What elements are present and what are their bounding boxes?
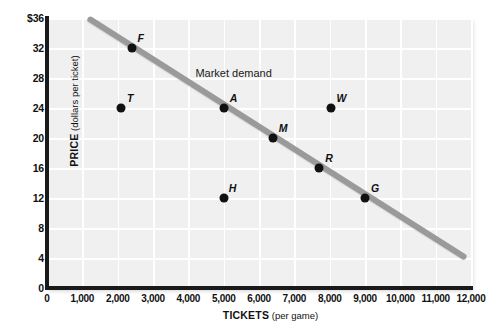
y-tick-label: 16 bbox=[2, 162, 44, 174]
gridline-vertical bbox=[224, 18, 226, 288]
market-demand-annotation: Market demand bbox=[195, 67, 271, 79]
y-tick-label: 32 bbox=[2, 42, 44, 54]
y-axis-line bbox=[45, 16, 49, 290]
x-tick-label: 4,000 bbox=[177, 293, 201, 304]
data-point-a bbox=[219, 104, 228, 113]
x-tick-label: 12,000 bbox=[457, 293, 486, 304]
data-point-w bbox=[327, 104, 336, 113]
y-axis-title-bold: PRICE bbox=[68, 134, 80, 167]
x-axis-title: TICKETS (per game) bbox=[0, 309, 501, 321]
gridline-vertical bbox=[436, 18, 438, 288]
gridline-horizontal bbox=[47, 48, 471, 50]
gridline-vertical bbox=[365, 18, 367, 288]
y-tick-label: 4 bbox=[2, 252, 44, 264]
gridline-horizontal bbox=[47, 18, 471, 20]
y-tick-label: 20 bbox=[2, 132, 44, 144]
y-tick-label: 28 bbox=[2, 72, 44, 84]
gridline-vertical bbox=[188, 18, 190, 288]
gridline-vertical bbox=[118, 18, 120, 288]
data-point-m bbox=[269, 134, 278, 143]
y-tick-label: 12 bbox=[2, 192, 44, 204]
x-tick-label: 10,000 bbox=[386, 293, 415, 304]
y-axis-title: PRICE (dollars per ticket) bbox=[68, 31, 80, 191]
y-tick-label: 8 bbox=[2, 222, 44, 234]
y-axis-tick-labels: 048121620242832$36 bbox=[0, 0, 44, 331]
gridline-horizontal bbox=[47, 108, 471, 110]
demand-curve-figure: 048121620242832$36 01,0002,0003,0004,000… bbox=[0, 0, 501, 331]
x-tick-label: 1,000 bbox=[71, 293, 95, 304]
data-point-h bbox=[219, 194, 228, 203]
x-axis-line bbox=[45, 286, 473, 290]
gridline-horizontal bbox=[47, 228, 471, 230]
data-point-label-w: W bbox=[336, 92, 346, 104]
x-tick-label: 11,000 bbox=[422, 293, 450, 304]
data-point-g bbox=[361, 194, 370, 203]
data-point-label-g: G bbox=[371, 182, 379, 194]
gridline-vertical bbox=[471, 18, 473, 288]
x-tick-label: 6,000 bbox=[247, 293, 271, 304]
gridline-vertical bbox=[400, 18, 402, 288]
x-axis-title-units: (per game) bbox=[272, 310, 318, 321]
x-tick-label: 7,000 bbox=[283, 293, 307, 304]
data-point-label-f: F bbox=[138, 32, 144, 44]
gridline-horizontal bbox=[47, 258, 471, 260]
data-point-f bbox=[127, 44, 136, 53]
y-tick-label: 0 bbox=[2, 282, 44, 294]
data-point-label-m: M bbox=[279, 122, 288, 134]
x-tick-label: 3,000 bbox=[141, 293, 165, 304]
plot-area bbox=[47, 18, 471, 288]
x-tick-label: 5,000 bbox=[212, 293, 236, 304]
x-tick-label: 2,000 bbox=[106, 293, 130, 304]
gridline-horizontal bbox=[47, 138, 471, 140]
x-axis-title-bold: TICKETS bbox=[223, 309, 269, 321]
data-point-label-t: T bbox=[127, 92, 133, 104]
y-axis-title-units: (dollars per ticket) bbox=[69, 55, 80, 131]
data-point-t bbox=[117, 104, 126, 113]
x-tick-label: 8,000 bbox=[318, 293, 342, 304]
gridline-vertical bbox=[82, 18, 84, 288]
x-tick-label: 9,000 bbox=[353, 293, 377, 304]
gridline-vertical bbox=[259, 18, 261, 288]
data-point-label-a: A bbox=[230, 92, 238, 104]
y-tick-label: 24 bbox=[2, 102, 44, 114]
x-tick-label: 0 bbox=[44, 293, 49, 304]
data-point-label-h: H bbox=[229, 182, 237, 194]
gridline-horizontal bbox=[47, 198, 471, 200]
y-tick-label: $36 bbox=[2, 12, 44, 24]
gridline-horizontal bbox=[47, 168, 471, 170]
data-point-label-r: R bbox=[325, 152, 333, 164]
data-point-r bbox=[315, 164, 324, 173]
